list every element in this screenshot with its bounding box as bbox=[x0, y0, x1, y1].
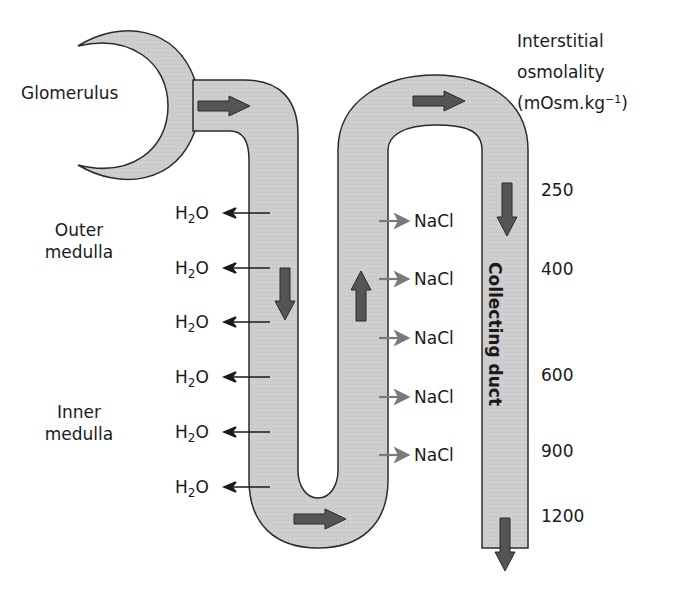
h2o-label: H2O bbox=[175, 367, 209, 387]
h2o-label: H2O bbox=[175, 203, 209, 223]
nacl-label: NaCl bbox=[414, 328, 454, 348]
osmolality-value: 400 bbox=[541, 259, 573, 279]
inner-medulla-line2: medulla bbox=[38, 423, 120, 445]
nacl-label: NaCl bbox=[414, 269, 454, 289]
outer-medulla-line2: medulla bbox=[38, 241, 120, 263]
outer-medulla-line1: Outer bbox=[38, 219, 120, 241]
h2o-label: H2O bbox=[175, 422, 209, 442]
collecting-duct-label: Collecting duct bbox=[485, 262, 505, 406]
interstitial-osmolality-title: Interstitial osmolality (mOsm.kg−1) bbox=[517, 26, 628, 119]
interstitial-title-line2: osmolality bbox=[517, 57, 628, 88]
inner-medulla-line1: Inner bbox=[38, 401, 120, 423]
osmolality-value: 600 bbox=[541, 365, 573, 385]
osmolality-value: 900 bbox=[541, 441, 573, 461]
interstitial-units: (mOsm.kg−1) bbox=[517, 88, 628, 119]
h2o-label: H2O bbox=[175, 312, 209, 332]
glomerulus-label: Glomerulus bbox=[21, 82, 118, 104]
osmolality-value: 250 bbox=[541, 180, 573, 200]
glomerulus-capsule bbox=[78, 31, 195, 180]
inner-medulla-label: Inner medulla bbox=[38, 401, 120, 445]
outer-medulla-label: Outer medulla bbox=[38, 219, 120, 263]
h2o-label: H2O bbox=[175, 477, 209, 497]
h2o-label: H2O bbox=[175, 258, 209, 278]
nacl-label: NaCl bbox=[414, 445, 454, 465]
osmolality-value: 1200 bbox=[541, 506, 584, 526]
nacl-label: NaCl bbox=[414, 211, 454, 231]
interstitial-title-line1: Interstitial bbox=[517, 26, 628, 57]
nacl-label: NaCl bbox=[414, 387, 454, 407]
